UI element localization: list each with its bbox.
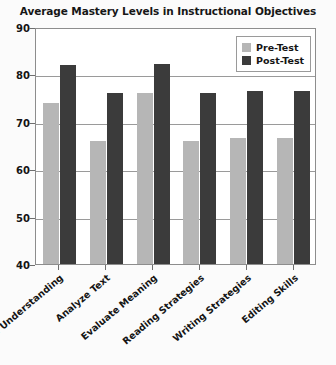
y-axis-tick-label: 60 xyxy=(4,165,30,176)
bar-chart: Average Mastery Levels in Instructional … xyxy=(0,0,336,365)
y-axis-tick-label: 80 xyxy=(4,70,30,81)
x-axis-tick-mark xyxy=(105,265,106,270)
y-axis-tick-label: 90 xyxy=(4,23,30,34)
x-axis-tick-mark xyxy=(293,265,294,270)
bar-post-test xyxy=(247,91,263,264)
x-axis-tick-mark xyxy=(152,265,153,270)
legend-swatch-icon xyxy=(242,56,251,65)
x-axis-tick-mark xyxy=(246,265,247,270)
bar-post-test xyxy=(294,91,310,264)
bar-post-test xyxy=(60,65,76,264)
bar-pre-test xyxy=(230,138,246,264)
legend-label: Pre-Test xyxy=(256,42,299,53)
bar-pre-test xyxy=(277,138,293,264)
chart-title: Average Mastery Levels in Instructional … xyxy=(0,5,336,17)
gridline xyxy=(36,171,315,172)
x-axis-tick-mark xyxy=(58,265,59,270)
bar-post-test xyxy=(154,64,170,264)
bar-pre-test xyxy=(183,141,199,264)
gridline xyxy=(36,124,315,125)
chart-legend: Pre-TestPost-Test xyxy=(236,36,311,72)
y-axis-tick-mark xyxy=(29,265,35,266)
x-axis-tick-mark xyxy=(199,265,200,270)
legend-item: Post-Test xyxy=(242,54,304,67)
y-axis-tick-label: 40 xyxy=(4,260,30,271)
gridline xyxy=(36,219,315,220)
legend-label: Post-Test xyxy=(256,55,304,66)
bar-post-test xyxy=(200,93,216,264)
y-axis-tick-label: 50 xyxy=(4,212,30,223)
y-axis-tick-label: 70 xyxy=(4,117,30,128)
legend-item: Pre-Test xyxy=(242,41,304,54)
gridline xyxy=(36,76,315,77)
bar-pre-test xyxy=(90,141,106,264)
legend-swatch-icon xyxy=(242,43,251,52)
bar-pre-test xyxy=(43,103,59,264)
bar-pre-test xyxy=(137,93,153,264)
bar-post-test xyxy=(107,93,123,264)
